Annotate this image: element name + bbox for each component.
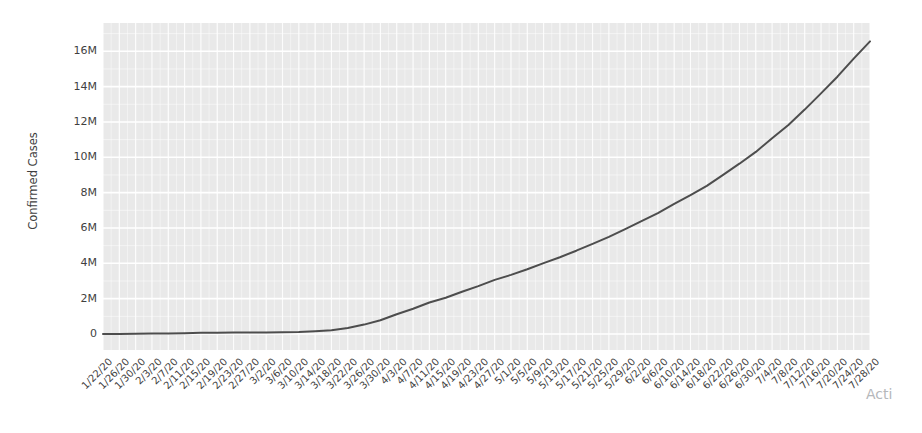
y-tick-label: 8M: [37, 187, 97, 199]
y-tick-label: 2M: [37, 293, 97, 305]
covid-confirmed-cases-chart-page: Confirmed Cases 02M4M6M8M10M12M14M16M 1/…: [0, 0, 922, 433]
y-axis-title: Confirmed Cases: [26, 132, 40, 230]
y-tick-label: 0: [37, 328, 97, 340]
y-tick-label: 12M: [37, 116, 97, 128]
activate-watermark-text: Acti: [866, 386, 892, 402]
y-tick-label: 16M: [37, 45, 97, 57]
y-tick-label: 10M: [37, 151, 97, 163]
y-tick-label: 14M: [37, 81, 97, 93]
y-tick-label: 4M: [37, 257, 97, 269]
y-tick-label: 6M: [37, 222, 97, 234]
